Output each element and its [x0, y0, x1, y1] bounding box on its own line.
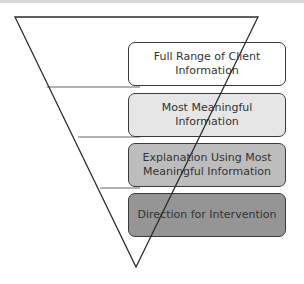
level-label-1: Full Range of Client Information: [133, 50, 281, 78]
level-box-2: Most Meaningful Information: [128, 93, 286, 137]
level-box-1: Full Range of Client Information: [128, 42, 286, 86]
level-label-2: Most Meaningful Information: [133, 101, 281, 129]
level-label-3: Explanation Using Most Meaningful Inform…: [133, 151, 281, 179]
level-label-4: Direction for Intervention: [138, 208, 277, 222]
level-box-3: Explanation Using Most Meaningful Inform…: [128, 143, 286, 187]
level-box-4: Direction for Intervention: [128, 193, 286, 237]
